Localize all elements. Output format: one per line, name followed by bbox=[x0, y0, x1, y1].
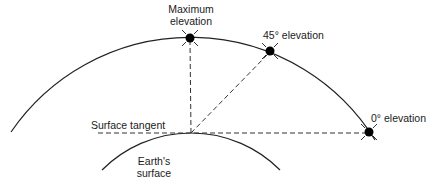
elevation-45-label: 45° elevation bbox=[263, 29, 324, 41]
satellite-0-elevation-icon bbox=[361, 124, 377, 140]
satellite-45-elevation-icon bbox=[262, 43, 278, 59]
earth-surface-label-line1: Earth's bbox=[130, 155, 178, 167]
earth-surface-label-line2: surface bbox=[130, 167, 178, 179]
earth-surface-label: Earth's surface bbox=[130, 155, 178, 179]
elevation-0-label: 0° elevation bbox=[371, 112, 426, 124]
orbit-elevation-diagram: Maximum elevation 45° elevation 0° eleva… bbox=[0, 0, 434, 185]
max-elevation-line bbox=[190, 42, 191, 133]
max-elevation-label-line2: elevation bbox=[160, 15, 222, 27]
earth-surface-arc bbox=[102, 133, 280, 170]
elevation-45-line bbox=[191, 54, 268, 133]
max-elevation-label-line1: Maximum bbox=[160, 3, 222, 15]
orbit-arc bbox=[11, 37, 375, 140]
diagram-canvas bbox=[0, 0, 434, 185]
surface-tangent-label: Surface tangent bbox=[91, 119, 165, 131]
max-elevation-label: Maximum elevation bbox=[160, 3, 222, 27]
